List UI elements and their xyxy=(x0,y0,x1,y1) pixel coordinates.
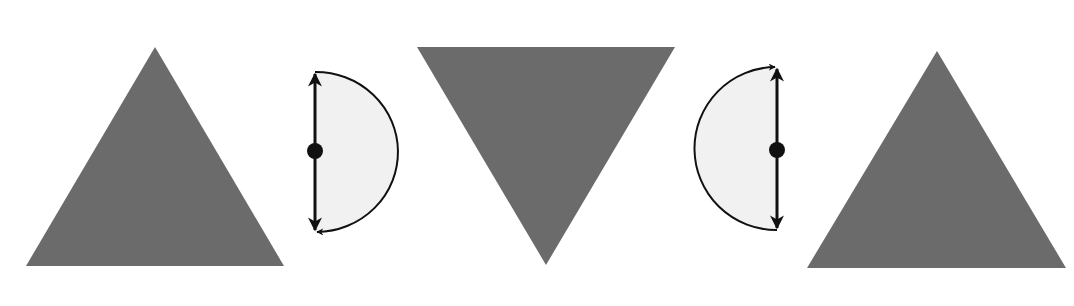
diagram-canvas xyxy=(0,0,1074,306)
inverted-triangle-center xyxy=(417,47,675,265)
rotation-symbol-right xyxy=(694,67,785,230)
diagram-svg xyxy=(0,0,1074,306)
pivot-dot-icon xyxy=(769,142,785,158)
rotation-symbol-left xyxy=(307,72,398,232)
semicircle-left xyxy=(315,72,397,232)
semicircle-right xyxy=(696,67,777,230)
upright-triangle-left xyxy=(26,47,284,266)
upright-triangle-right xyxy=(807,51,1066,268)
pivot-dot-icon xyxy=(307,143,323,159)
